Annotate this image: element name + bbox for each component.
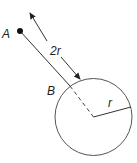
diagram: A B 2r r bbox=[0, 0, 137, 163]
distance-arrow-upper bbox=[30, 13, 47, 41]
label-distance-2r: 2r bbox=[49, 44, 62, 58]
dashed-line-b-to-center bbox=[70, 86, 94, 117]
radius-line bbox=[94, 107, 132, 117]
label-point-b: B bbox=[47, 84, 55, 98]
point-a-dot bbox=[17, 28, 23, 34]
label-point-a: A bbox=[1, 27, 10, 41]
distance-arrow-lower bbox=[61, 57, 80, 79]
label-radius-r: r bbox=[108, 96, 113, 110]
